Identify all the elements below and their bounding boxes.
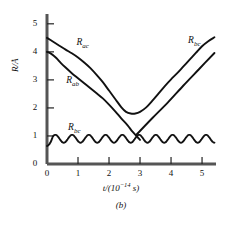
curve-label-subscript: bc (74, 127, 81, 135)
x-axis-label-main: t/(10 (103, 183, 120, 193)
y-tick-label: 2 (29, 102, 41, 112)
curve-label-R_bc_rising: Rbc (188, 35, 200, 48)
y-tick-label: 3 (29, 74, 41, 84)
curve-label-R_bc_oscillating: Rbc (68, 122, 80, 135)
panel-label: (b) (0, 200, 242, 210)
curve-label-subscript: ab (72, 80, 79, 88)
curve-R_bc_rising (136, 53, 214, 135)
x-tick-label: 5 (194, 168, 210, 178)
curve-label-R_ac: Rac (76, 37, 88, 50)
y-tick-label: 0 (29, 158, 41, 168)
x-tick-label: 2 (101, 168, 117, 178)
curve-label-R_ab: Rab (66, 75, 79, 88)
y-tick-label: 5 (29, 18, 41, 28)
curve-label-subscript: bc (194, 40, 201, 48)
x-axis-label-tail: s) (131, 183, 140, 193)
x-tick-label: 3 (132, 168, 148, 178)
y-tick-label: 4 (29, 46, 41, 56)
figure-panel-b: R/Å t/(10−14 s) 012345012345 RacRabRbcRb… (0, 0, 242, 225)
y-tick-label: 1 (29, 130, 41, 140)
x-tick-label: 1 (70, 168, 86, 178)
x-tick-label: 0 (39, 168, 55, 178)
curve-R_bc_oscillating (47, 135, 214, 146)
x-axis-label: t/(10−14 s) (0, 181, 242, 193)
x-tick-label: 4 (163, 168, 179, 178)
curve-label-subscript: ac (82, 42, 89, 50)
y-axis-label: R/Å (10, 59, 20, 73)
x-axis-label-exponent: −14 (120, 181, 131, 188)
curve-R_ab (47, 52, 140, 140)
